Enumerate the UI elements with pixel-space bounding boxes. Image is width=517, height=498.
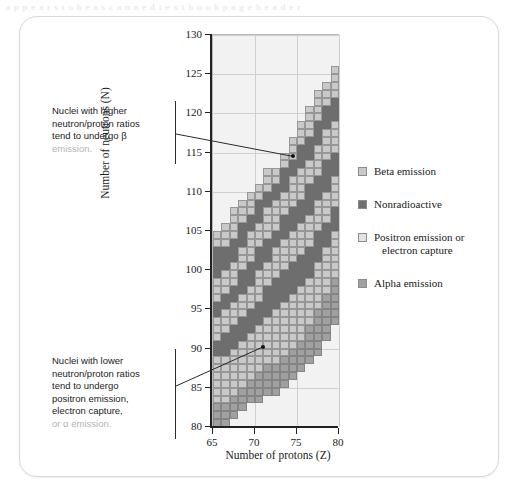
- figure-card: 80859095100105110115120125130 65707580 N…: [19, 16, 499, 477]
- annotation-target-dot-bottom: [261, 345, 265, 349]
- annotation-leader-lines: [20, 17, 498, 476]
- annotation-target-dot-top: [291, 154, 295, 158]
- scan-header-text: a p p e a r s t o b e a s c a n n e d t …: [0, 0, 517, 14]
- leader-line-lower-ratio: [176, 347, 263, 386]
- scan-header-line: a p p e a r s t o b e a s c a n n e d t …: [0, 0, 517, 12]
- leader-line-higher-ratio: [176, 134, 293, 156]
